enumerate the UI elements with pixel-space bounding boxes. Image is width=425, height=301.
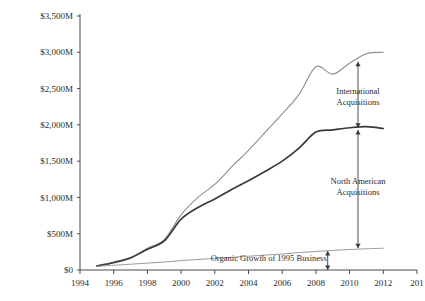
y-axis-tick-labels: $0$500M$1,000M$1,500M$2,000M$2,500M$3,00… bbox=[40, 11, 73, 275]
y-axis-tick-label: $2,500M bbox=[40, 84, 73, 94]
growth-line-chart: $0$500M$1,000M$1,500M$2,000M$2,500M$3,00… bbox=[0, 0, 425, 301]
annotation-arrowhead-down bbox=[325, 265, 330, 270]
x-axis-tick-label: 1994 bbox=[71, 278, 90, 288]
x-axis-tick-label: 2004 bbox=[240, 278, 259, 288]
y-axis-tick-label: $1,000M bbox=[40, 193, 73, 203]
series-line-1 bbox=[97, 52, 383, 265]
chart-annotations-group: InternationalAcquisitionsNorth AmericanA… bbox=[211, 62, 387, 270]
annotation-international-acquisitions: InternationalAcquisitions bbox=[336, 62, 380, 128]
x-axis-tick-label: 1998 bbox=[138, 278, 157, 288]
chart-axes bbox=[77, 14, 417, 274]
annotation-north-american-acquisitions: North AmericanAcquisitions bbox=[331, 130, 387, 248]
x-axis-tick-label: 2010 bbox=[341, 278, 360, 288]
annotation-label: Acquisitions bbox=[337, 97, 380, 107]
x-axis-tick-labels: 1994199619982000200220042006200820102012… bbox=[71, 278, 424, 288]
chart-series-group bbox=[97, 52, 383, 266]
annotation-organic-growth: Organic Growth of 1995 Business bbox=[211, 251, 331, 270]
annotation-label: Acquisitions bbox=[337, 187, 380, 197]
y-axis-tick-label: $0 bbox=[64, 265, 74, 275]
y-axis-tick-label: $3,000M bbox=[40, 47, 73, 57]
annotation-label: Organic Growth of 1995 Business bbox=[211, 253, 327, 263]
x-axis-tick-label: 2012 bbox=[374, 278, 392, 288]
x-axis-tick-label: 201 bbox=[410, 278, 424, 288]
x-axis-tick-label: 2006 bbox=[273, 278, 292, 288]
annotation-label: International bbox=[336, 86, 380, 96]
y-axis-tick-label: $3,500M bbox=[40, 11, 73, 21]
chart-container: $0$500M$1,000M$1,500M$2,000M$2,500M$3,00… bbox=[0, 0, 425, 301]
annotation-arrowhead-down bbox=[355, 244, 360, 249]
annotation-label: North American bbox=[331, 176, 387, 186]
y-axis-tick-label: $2,000M bbox=[40, 120, 73, 130]
x-axis-tick-label: 2008 bbox=[307, 278, 326, 288]
x-axis-tick-label: 1996 bbox=[105, 278, 124, 288]
y-axis-tick-label: $500M bbox=[47, 229, 73, 239]
x-axis-tick-label: 2002 bbox=[206, 278, 224, 288]
annotation-arrowhead-up bbox=[355, 130, 360, 135]
y-axis-tick-label: $1,500M bbox=[40, 156, 73, 166]
annotation-arrowhead-up bbox=[355, 62, 360, 67]
x-axis-tick-label: 2000 bbox=[172, 278, 191, 288]
